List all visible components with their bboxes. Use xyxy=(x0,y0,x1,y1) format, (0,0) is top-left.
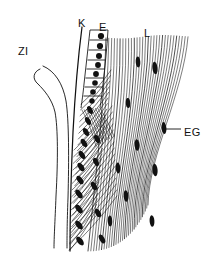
epithelial-nucleus xyxy=(97,43,103,49)
label-l: L xyxy=(144,27,150,39)
label-e: E xyxy=(99,21,107,33)
label-k: K xyxy=(78,17,86,29)
label-eg: EG xyxy=(184,126,201,138)
figure-canvas: ZIKELEG xyxy=(0,0,210,258)
epithelial-nucleus xyxy=(93,71,99,77)
label-zi: ZI xyxy=(18,45,28,57)
epithelial-nucleus xyxy=(89,98,94,103)
epithelial-nucleus xyxy=(92,80,98,86)
epithelial-nucleus xyxy=(90,89,96,95)
epithelial-nucleus xyxy=(95,62,101,68)
histology-diagram: ZIKELEG xyxy=(0,0,210,258)
epithelial-nucleus xyxy=(96,53,102,59)
epithelial-nucleus xyxy=(98,33,104,39)
